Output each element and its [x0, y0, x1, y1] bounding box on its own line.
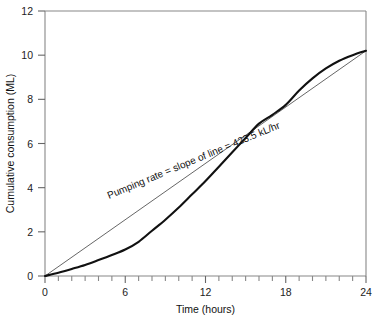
chart-figure: 0 2 4 6 8 10 12 — [0, 0, 387, 318]
y-tick-label: 0 — [27, 270, 33, 282]
x-axis-major-ticks — [45, 276, 366, 283]
x-axis-tick-labels: 0 6 12 18 24 — [42, 286, 372, 298]
y-tick-label: 4 — [27, 182, 33, 194]
y-axis-title: Cumulative consumption (ML) — [4, 74, 16, 213]
y-tick-label: 8 — [27, 93, 33, 105]
plot-frame — [45, 11, 366, 276]
y-tick-label: 10 — [21, 49, 33, 61]
y-axis-tick-labels: 0 2 4 6 8 10 12 — [21, 5, 33, 282]
x-tick-label: 0 — [42, 286, 48, 298]
cumulative-consumption-chart: 0 2 4 6 8 10 12 — [0, 0, 387, 318]
y-axis-ticks — [38, 11, 45, 276]
y-tick-label: 12 — [21, 5, 33, 17]
x-tick-label: 24 — [360, 286, 372, 298]
y-tick-label: 6 — [27, 138, 33, 150]
average-rate-line — [45, 51, 366, 276]
pumping-rate-annotation: Pumping rate = slope of line = 423.5 kL/… — [106, 119, 282, 200]
x-axis-title: Time (hours) — [176, 303, 235, 315]
y-tick-label: 2 — [27, 226, 33, 238]
x-tick-label: 18 — [280, 286, 292, 298]
x-tick-label: 6 — [122, 286, 128, 298]
pumping-rate-annotation-label: Pumping rate = slope of line = 423.5 kL/… — [106, 119, 282, 200]
x-tick-label: 12 — [200, 286, 212, 298]
